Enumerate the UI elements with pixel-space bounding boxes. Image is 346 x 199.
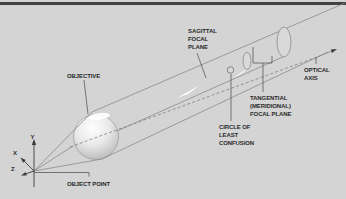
top-border-rule [0, 2, 346, 5]
tangential-label-line2: (MERIDIONAL) [250, 103, 291, 109]
sagittal-label-line1: SAGITTAL [188, 28, 217, 34]
object-point-label: OBJECT POINT [67, 181, 111, 187]
circle-label-line2: LEAST [219, 132, 239, 138]
tangential-label-line1: TANGENTIAL [250, 95, 288, 101]
x-axis-label: X [13, 150, 17, 156]
y-axis-label: Y [31, 134, 35, 140]
astigmatism-diagram: Y X Z OBJECTIVE SAGITTAL FOCAL PLANE TAN… [0, 0, 346, 199]
objective-lens-sphere [74, 115, 119, 160]
beam-cross-section-ellipse-small [243, 53, 251, 70]
circle-of-least-confusion-shape [227, 67, 233, 73]
diagram-background [0, 0, 346, 199]
objective-label: OBJECTIVE [67, 73, 100, 79]
sagittal-label-line2: FOCAL [188, 36, 209, 42]
tangential-focal-plane-label: TANGENTIAL (MERIDIONAL) FOCAL PLANE [250, 95, 292, 117]
circle-label-line3: CONFUSION [219, 140, 254, 146]
sagittal-label-line3: PLANE [188, 44, 208, 50]
beam-cross-section-ellipse-large [277, 27, 291, 57]
z-axis-label: Z [11, 166, 15, 172]
circle-label-line1: CIRCLE OF [219, 124, 251, 130]
optical-axis-label-line2: AXIS [304, 75, 318, 81]
optical-axis-label-line1: OPTICAL [304, 67, 330, 73]
tangential-label-line3: FOCAL PLANE [250, 111, 292, 117]
diagram-canvas: Y X Z OBJECTIVE SAGITTAL FOCAL PLANE TAN… [0, 0, 346, 199]
